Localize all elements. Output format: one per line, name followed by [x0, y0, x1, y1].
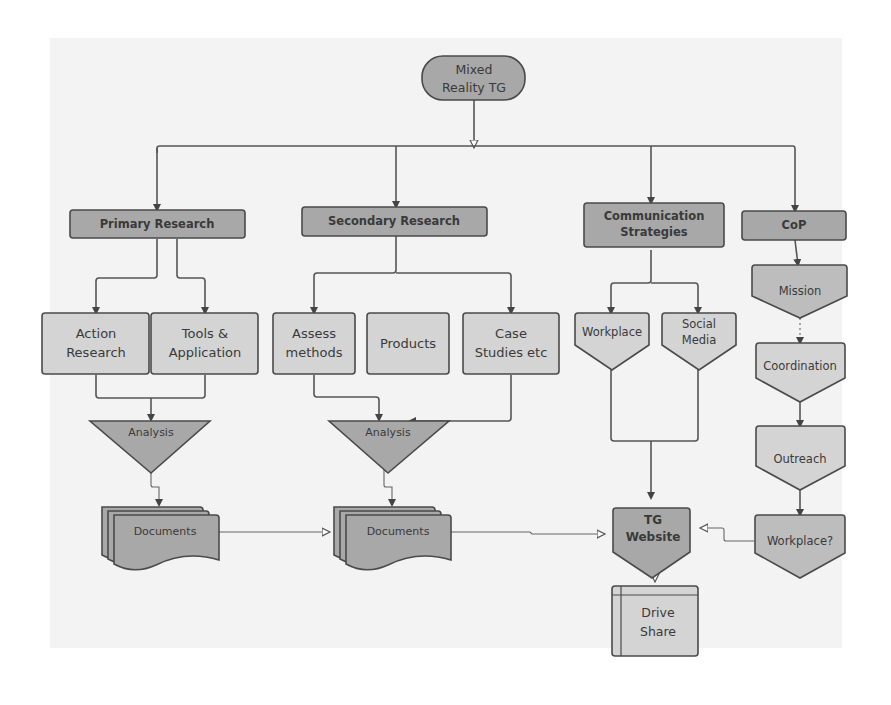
- node-workplace[interactable]: Workplace: [575, 313, 649, 370]
- node-label-line1: Drive: [641, 605, 675, 620]
- node-label: Documents: [134, 525, 197, 538]
- node-social-media[interactable]: Social Media: [662, 313, 736, 370]
- node-label-line2: Application: [169, 345, 242, 360]
- node-assess-methods[interactable]: Assess methods: [273, 313, 355, 374]
- category-label: CoP: [782, 218, 807, 232]
- node-label: Documents: [367, 525, 430, 538]
- node-label-line1: Action: [76, 326, 117, 341]
- node-documents-secondary[interactable]: Documents: [334, 507, 451, 570]
- node-products[interactable]: Products: [367, 313, 449, 374]
- category-label: Secondary Research: [328, 214, 460, 228]
- node-label-line2: Media: [682, 333, 717, 347]
- node-outreach[interactable]: Outreach: [756, 426, 845, 490]
- node-tg-website[interactable]: TG Website: [613, 508, 690, 578]
- node-analysis-secondary[interactable]: Analysis: [329, 421, 449, 473]
- node-action-research[interactable]: Action Research: [42, 313, 149, 374]
- category-label-line1: Communication: [604, 209, 705, 223]
- root-node-mixed-reality-tg[interactable]: Mixed Reality TG: [422, 56, 525, 100]
- flowchart: Mixed Reality TG Primary Research Second…: [0, 0, 891, 705]
- node-tools-application[interactable]: Tools & Application: [151, 313, 258, 374]
- node-label: Products: [380, 336, 436, 351]
- node-drive-share[interactable]: Drive Share: [612, 586, 698, 656]
- node-analysis-primary[interactable]: Analysis: [90, 421, 210, 473]
- node-label: Analysis: [128, 426, 174, 439]
- root-label-line1: Mixed: [456, 62, 493, 77]
- node-label-line1: Case: [495, 326, 527, 341]
- node-label-line2: Website: [626, 530, 681, 544]
- node-label: Mission: [779, 284, 822, 298]
- category-cop[interactable]: CoP: [742, 211, 846, 240]
- node-label-line2: Research: [66, 345, 126, 360]
- node-label: Outreach: [773, 452, 826, 466]
- node-label-line1: TG: [644, 513, 662, 527]
- node-label: Workplace: [582, 325, 642, 339]
- root-label-line2: Reality TG: [442, 80, 506, 95]
- node-label: Coordination: [763, 359, 837, 373]
- node-label-line1: Assess: [292, 326, 336, 341]
- node-case-studies[interactable]: Case Studies etc: [463, 313, 559, 374]
- node-label: Workplace?: [767, 534, 833, 548]
- node-label-line2: methods: [286, 345, 343, 360]
- node-documents-primary[interactable]: Documents: [102, 507, 219, 570]
- node-workplace-question[interactable]: Workplace?: [755, 515, 845, 578]
- category-secondary-research[interactable]: Secondary Research: [302, 207, 487, 236]
- node-label: Analysis: [365, 426, 411, 439]
- node-label-line2: Share: [640, 624, 676, 639]
- node-label-line1: Tools &: [181, 326, 228, 341]
- category-communication-strategies[interactable]: Communication Strategies: [584, 203, 724, 247]
- category-label-line2: Strategies: [620, 225, 687, 239]
- node-label-line1: Social: [682, 317, 716, 331]
- node-coordination[interactable]: Coordination: [756, 343, 845, 402]
- category-primary-research[interactable]: Primary Research: [70, 210, 245, 238]
- node-mission[interactable]: Mission: [752, 265, 847, 318]
- category-label: Primary Research: [100, 217, 215, 231]
- node-label-line2: Studies etc: [475, 345, 548, 360]
